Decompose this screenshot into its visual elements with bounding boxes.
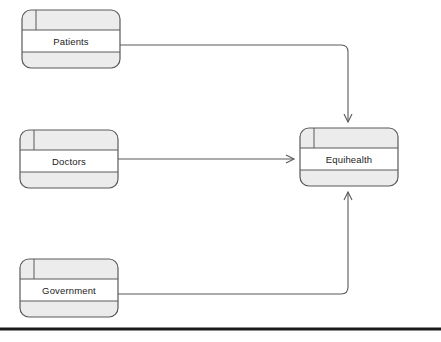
connector-patients-to-equihealth [120,45,348,122]
node-equihealth[interactable]: Equihealth [300,128,398,186]
node-equihealth-band-bottom [300,170,398,186]
node-patients[interactable]: Patients [22,10,120,68]
node-government-band-bottom [20,301,118,317]
node-government-label: Government [42,285,96,296]
diagram-canvas: Patients Doctors [0,0,441,342]
node-equihealth-band-top [300,128,398,148]
node-patients-band-top [22,10,120,30]
node-patients-label: Patients [53,36,89,47]
node-patients-band-bottom [22,52,120,68]
node-doctors[interactable]: Doctors [20,130,118,188]
node-equihealth-label: Equihealth [326,154,372,165]
node-doctors-label: Doctors [52,156,86,167]
node-government-band-top [20,259,118,279]
node-doctors-band-bottom [20,172,118,188]
connector-government-to-equihealth [118,192,348,294]
node-government[interactable]: Government [20,259,118,317]
diagram-svg: Patients Doctors [0,0,441,342]
node-doctors-band-top [20,130,118,150]
